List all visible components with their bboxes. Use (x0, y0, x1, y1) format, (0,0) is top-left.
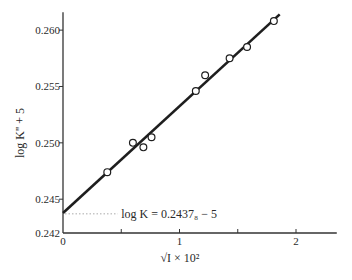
y-tick-label: 0.242 (35, 227, 60, 239)
y-tick-label: 0.260 (35, 24, 60, 36)
data-point (130, 139, 137, 146)
x-axis-label: √I × 10² (161, 251, 200, 265)
chart: 0.2420.2450.2500.2550.260012 log K = 0.2… (0, 0, 352, 280)
x-tick-label: 2 (293, 235, 299, 247)
data-point (270, 18, 277, 25)
annotation: log K = 0.2437₈ − 5 (65, 207, 217, 221)
data-point (148, 134, 155, 141)
data-point (140, 144, 147, 151)
x-tick-label: 0 (60, 235, 66, 247)
y-tick-label: 0.245 (35, 193, 60, 205)
data-point (244, 44, 251, 51)
y-tick-label: 0.250 (35, 137, 60, 149)
y-axis-label: log K'' + 5 (13, 108, 27, 158)
data-point (202, 72, 209, 79)
data-point (104, 169, 111, 176)
data-point (226, 55, 233, 62)
annotation-text: log K = 0.2437₈ − 5 (121, 207, 217, 221)
x-tick-label: 1 (177, 235, 183, 247)
data-point (192, 88, 199, 95)
y-tick-label: 0.255 (35, 80, 60, 92)
